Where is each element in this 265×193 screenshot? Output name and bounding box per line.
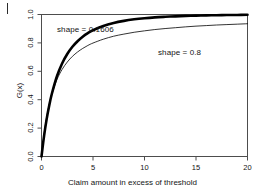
y-axis-ticks (38, 15, 42, 157)
y-tick-label: 0.6 (26, 63, 35, 79)
x-tick-label: 5 (83, 163, 103, 172)
series-line-2 (42, 24, 248, 157)
data-series-layer (42, 15, 248, 157)
x-tick-label: 15 (186, 163, 206, 172)
y-tick-label: 0.0 (26, 148, 35, 164)
series-annotation-thick: shape = 0.1606 (57, 25, 114, 34)
x-axis-label: Claim amount in excess of threshold (0, 178, 265, 187)
y-tick-label: 0.2 (26, 120, 35, 136)
series-line-1 (42, 15, 248, 157)
y-tick-label: 1.0 (26, 6, 35, 22)
x-tick-label: 10 (135, 163, 155, 172)
x-tick-label: 20 (238, 163, 258, 172)
y-axis-label: G(x) (15, 72, 24, 110)
y-tick-label: 0.4 (26, 91, 35, 107)
figure-container: shape = 0.1606 shape = 0.8 Claim amount … (0, 0, 265, 193)
y-tick-label: 0.8 (26, 34, 35, 50)
x-tick-label: 0 (32, 163, 52, 172)
x-axis-ticks (42, 157, 248, 161)
plot-frame (42, 15, 248, 157)
series-annotation-thin: shape = 0.8 (158, 48, 201, 57)
